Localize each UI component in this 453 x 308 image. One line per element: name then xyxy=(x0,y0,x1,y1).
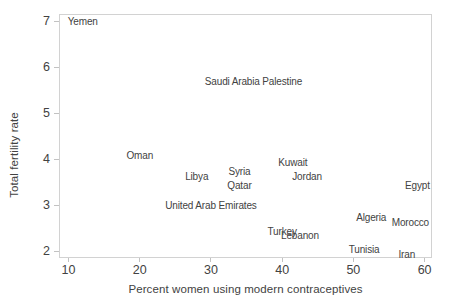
y-tick-mark xyxy=(54,21,59,22)
y-tick-label: 4 xyxy=(43,152,50,166)
x-tick-mark xyxy=(282,258,283,262)
plot-area: 234567102030405060YemenSaudi ArabiaPales… xyxy=(59,14,432,258)
data-point-label: Egypt xyxy=(405,179,430,190)
x-tick-label: 50 xyxy=(346,263,360,277)
data-point-label: Yemen xyxy=(68,16,98,27)
x-tick-label: 20 xyxy=(133,263,147,277)
data-point-label: Jordan xyxy=(292,170,322,181)
x-tick-mark xyxy=(139,258,140,262)
x-tick-label: 10 xyxy=(62,263,76,277)
data-point-label: Oman xyxy=(126,149,153,160)
x-tick-label: 30 xyxy=(204,263,218,277)
data-point-label: Lebanon xyxy=(281,230,319,241)
y-tick-label: 5 xyxy=(43,106,50,120)
data-point-label: Morocco xyxy=(392,216,429,227)
x-axis-title: Percent women using modern contraceptive… xyxy=(59,283,432,295)
y-tick-label: 2 xyxy=(43,244,50,258)
scatter-chart-figure: Total fertility rate 234567102030405060Y… xyxy=(0,0,453,308)
y-tick-mark xyxy=(54,67,59,68)
data-point-label: Kuwait xyxy=(278,156,307,167)
y-tick-mark xyxy=(54,159,59,160)
x-tick-label: 40 xyxy=(275,263,289,277)
y-tick-mark xyxy=(54,113,59,114)
y-tick-mark xyxy=(54,251,59,252)
y-tick-label: 3 xyxy=(43,198,50,212)
x-tick-mark xyxy=(424,258,425,262)
data-point-label: Palestine xyxy=(262,76,302,87)
y-axis-title: Total fertility rate xyxy=(8,112,20,198)
data-point-label: Tunisia xyxy=(349,244,380,255)
data-point-label: Iran xyxy=(398,248,415,259)
x-tick-mark xyxy=(353,258,354,262)
data-point-label: Libya xyxy=(185,170,208,181)
y-tick-label: 6 xyxy=(43,60,50,74)
y-tick-label: 7 xyxy=(43,14,50,28)
data-point-label: Algeria xyxy=(356,211,386,222)
data-point-label: Qatar xyxy=(227,179,251,190)
x-tick-mark xyxy=(68,258,69,262)
data-point-label: Saudi Arabia xyxy=(205,76,260,87)
data-point-label: United Arab Emirates xyxy=(165,200,257,211)
x-tick-mark xyxy=(210,258,211,262)
x-tick-label: 60 xyxy=(418,263,432,277)
data-point-label: Syria xyxy=(228,165,250,176)
y-tick-mark xyxy=(54,205,59,206)
